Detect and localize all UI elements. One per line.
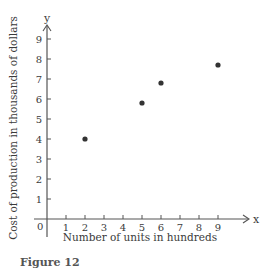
y-tick-label: 6: [36, 94, 42, 105]
y-tick-label: 4: [36, 134, 42, 145]
x-axis-name: x: [253, 213, 260, 226]
axes: [34, 25, 249, 237]
y-axis-label: Cost of production in thousands of dolla…: [7, 16, 19, 240]
data-point: [158, 80, 163, 85]
scatter-chart: 123456789123456789 Cost of production in…: [0, 0, 272, 276]
data-point: [139, 100, 144, 105]
origin-label: 0: [37, 221, 43, 232]
y-tick-label: 3: [36, 154, 42, 165]
data-points: [82, 62, 220, 141]
y-tick-label: 7: [36, 74, 42, 85]
figure-caption: Figure 12: [20, 256, 80, 269]
y-tick-label: 2: [36, 174, 42, 185]
y-tick-label: 9: [36, 34, 42, 45]
y-tick-label: 5: [36, 114, 42, 125]
x-axis-label: Number of units in hundreds: [63, 231, 217, 243]
data-point: [215, 62, 220, 67]
y-axis-name: y: [43, 12, 51, 25]
y-tick-label: 8: [36, 54, 42, 65]
y-tick-label: 1: [36, 194, 42, 205]
ticks: 123456789123456789: [36, 34, 222, 233]
data-point: [82, 136, 87, 141]
